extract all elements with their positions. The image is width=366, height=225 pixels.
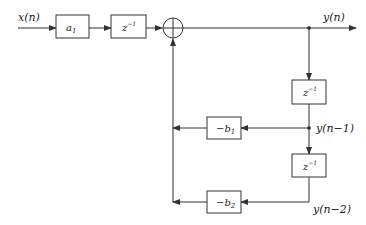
delay-block-top: z−1 (111, 15, 146, 38)
delay-block-right-2: z−1 (292, 154, 326, 177)
delay2-label: y(n−2) (312, 203, 351, 216)
output-label: y(n) (322, 11, 345, 24)
block-diagram: x(n) a1 z−1 y(n) z−1 y(n−1) −b1 z−1 y (0, 0, 366, 225)
delay-block-right-1: z−1 (292, 80, 326, 104)
input-label: x(n) (18, 11, 40, 24)
feedback-block-b2: −b2 (207, 191, 241, 213)
delay2-to-b2-arrow (241, 177, 309, 202)
adder-circle (163, 18, 183, 38)
gain-block-a1: a1 (56, 15, 89, 38)
delay1-label: y(n−1) (315, 122, 354, 135)
feedback-block-b1: −b1 (207, 117, 241, 139)
